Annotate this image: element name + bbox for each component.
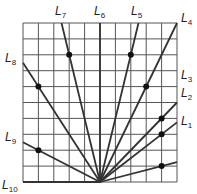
label-l8: L8 [5, 51, 17, 67]
label-l3: L3 [181, 68, 193, 84]
point-l5 [128, 52, 134, 58]
point-l7 [66, 52, 72, 58]
label-l4: L4 [181, 11, 193, 27]
point-l4 [143, 84, 149, 90]
label-l5: L5 [131, 4, 143, 20]
label-l9: L9 [5, 130, 17, 146]
point-l8 [35, 84, 41, 90]
label-l10: L10 [2, 178, 18, 194]
point-l1 [159, 163, 165, 169]
line-diagram: L1L2L3L4L5L6L7L8L9L10 [0, 0, 197, 194]
label-l6: L6 [94, 4, 106, 20]
label-l1: L1 [181, 114, 193, 130]
line-l9 [23, 142, 100, 182]
line-l8 [23, 63, 100, 182]
point-l2 [159, 131, 165, 137]
label-l2: L2 [181, 86, 193, 102]
point-l9 [35, 147, 41, 153]
label-l7: L7 [55, 4, 67, 20]
point-l3 [159, 115, 165, 121]
line-l3 [100, 103, 177, 183]
